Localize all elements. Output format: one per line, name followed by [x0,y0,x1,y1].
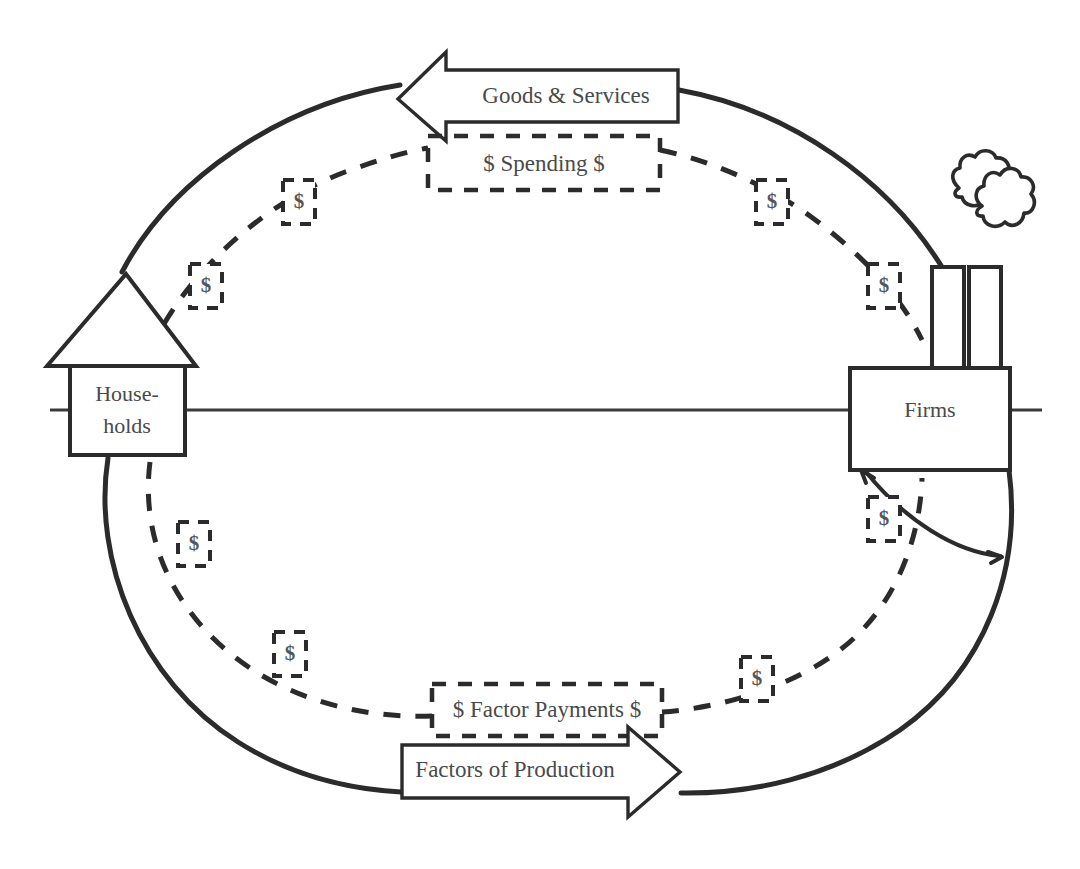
money-marker-lower-left-low: $ [274,632,306,676]
circular-flow-diagram: Goods & Services $ Spending $ $ Factor P… [0,0,1080,869]
spending-label: $ Spending $ [483,151,604,176]
inner-arc-arrowhead-right [988,552,1002,563]
smokestack-left-icon [932,267,964,370]
smokestack-right-icon [969,267,1001,370]
svg-text:$: $ [879,506,890,530]
dashed-arc-upper-right [660,150,922,340]
svg-text:$: $ [294,189,305,213]
factors-of-production-label: Factors of Production [415,757,615,782]
svg-text:$: $ [201,273,212,297]
node-firms[interactable]: Firms [850,151,1034,470]
money-marker-upper-right-high: $ [756,180,788,224]
households-label-line1: House- [95,381,159,406]
firms-label: Firms [904,397,955,422]
money-marker-lower-right-high: $ [868,497,900,541]
svg-text:$: $ [189,531,200,555]
dashed-arc-lower-left [148,462,432,716]
money-flow-loop [148,148,922,716]
households-label-line2: holds [103,413,151,438]
households-box-shape [70,366,185,455]
money-markers: $ $ $ $ $ $ $ $ [178,180,900,701]
money-marker-upper-right-low: $ [868,264,900,308]
svg-text:$: $ [767,189,778,213]
svg-text:$: $ [752,666,763,690]
arc-top-right [679,90,945,272]
flow-factors-of-production[interactable]: Factors of Production [402,727,680,817]
factor-payments-label: $ Factor Payments $ [453,697,641,722]
smoke-cloud-front-icon [976,168,1034,226]
flow-spending[interactable]: $ Spending $ [428,136,660,190]
node-households[interactable]: House- holds [47,274,196,455]
money-marker-lower-left-high: $ [178,522,210,566]
goods-services-label: Goods & Services [482,83,649,108]
arc-top-left [122,85,400,272]
money-marker-lower-right-low: $ [741,657,773,701]
money-marker-upper-left-low: $ [190,264,222,308]
svg-text:$: $ [879,273,890,297]
flow-goods-services[interactable]: Goods & Services [398,52,678,141]
house-roof-icon [47,274,196,366]
money-marker-upper-left-high: $ [283,180,315,224]
arc-bottom-right [681,470,1012,793]
svg-text:$: $ [285,641,296,665]
